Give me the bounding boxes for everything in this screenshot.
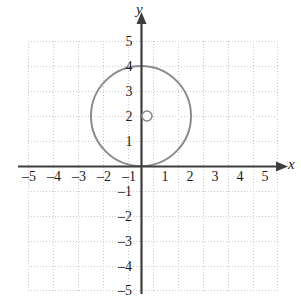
x-tick-label-2: 2 [183,170,197,184]
x-tick-label-4: 4 [233,170,247,184]
y-tick-label--1: –1 [114,185,136,199]
x-tick-label--4: –4 [43,170,65,184]
y-axis-label: y [136,2,143,17]
x-axis-label: x [288,157,295,172]
x-tick-label--2: –2 [93,170,115,184]
y-tick-label-2: 2 [122,110,136,124]
y-axis [137,12,147,294]
center-point-marker [142,111,152,121]
x-tick-label-3: 3 [208,170,222,184]
y-tick-label--4: –4 [114,260,136,274]
y-tick-label--2: –2 [114,210,136,224]
x-tick-label--3: –3 [68,170,90,184]
y-tick-label-1: 1 [122,135,136,149]
x-tick-label-1: 1 [158,170,172,184]
x-tick-label--1: –1 [118,170,140,184]
x-tick-label--5: –5 [18,170,40,184]
coordinate-plane [0,0,301,301]
x-tick-label-5: 5 [258,170,272,184]
y-tick-label-4: 4 [122,60,136,74]
y-tick-label--5: –5 [114,284,136,298]
y-tick-label-3: 3 [122,85,136,99]
y-tick-label--3: –3 [114,235,136,249]
y-tick-label-5: 5 [122,35,136,49]
graph-figure: –5 –4 –3 –2 –1 1 2 3 4 5 5 4 3 2 1 –1 –2… [0,0,301,301]
